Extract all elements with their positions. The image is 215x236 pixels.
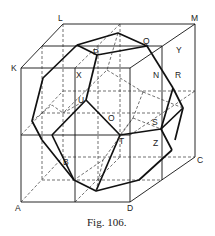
label-A: A bbox=[15, 203, 21, 213]
label-D: D bbox=[127, 203, 133, 213]
label-B: B bbox=[63, 157, 69, 167]
label-Q: Q bbox=[143, 36, 150, 46]
polyhedron-hidden-edges bbox=[32, 33, 183, 191]
figure-caption: Fig. 106. bbox=[87, 216, 127, 228]
label-K: K bbox=[11, 63, 17, 73]
label-S: S bbox=[152, 117, 158, 127]
vertex-labels: L M K P Q Y X N R U O S T Z B C A D bbox=[11, 13, 203, 213]
label-Z: Z bbox=[153, 138, 158, 148]
diagram-figure: L M K P Q Y X N R U O S T Z B C A D Fig.… bbox=[0, 0, 215, 236]
label-Y: Y bbox=[176, 45, 182, 55]
label-R: R bbox=[175, 70, 181, 80]
label-M: M bbox=[191, 13, 198, 23]
label-L: L bbox=[58, 13, 63, 23]
label-N: N bbox=[153, 70, 159, 80]
polyhedron-edges bbox=[32, 33, 183, 191]
label-U: U bbox=[78, 95, 84, 105]
label-T: T bbox=[119, 136, 124, 146]
label-P: P bbox=[93, 47, 99, 57]
label-O: O bbox=[108, 113, 115, 123]
label-C: C bbox=[197, 155, 203, 165]
label-X: X bbox=[76, 70, 82, 80]
